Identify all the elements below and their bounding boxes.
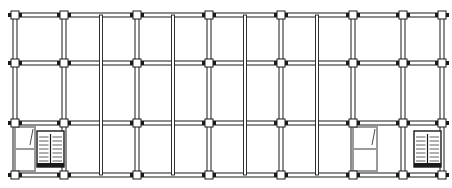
beam-stub — [285, 173, 288, 177]
secondary-line — [100, 15, 103, 175]
beam-stub — [57, 121, 60, 125]
beam-stub — [130, 121, 133, 125]
beam-stub — [435, 13, 438, 17]
beam-stub — [446, 13, 449, 17]
beam-stub — [407, 173, 410, 177]
beam-stub — [407, 121, 410, 125]
stair-right — [414, 131, 441, 167]
beam-stub — [8, 13, 11, 17]
service-rooms — [15, 127, 377, 171]
beam-stub — [8, 173, 11, 177]
beam-stub — [285, 13, 288, 17]
floor-plan — [0, 0, 452, 188]
beam-stub — [213, 121, 216, 125]
beam-stub — [346, 13, 349, 17]
beam-stub — [435, 61, 438, 65]
column-line — [279, 15, 283, 175]
beam — [15, 173, 442, 177]
beam-stub — [396, 121, 399, 125]
beam-stub — [435, 173, 438, 177]
beam-stub — [141, 173, 144, 177]
column-node — [399, 11, 407, 19]
column-node — [438, 119, 446, 127]
column-node — [133, 11, 141, 19]
column-line — [135, 15, 139, 175]
column-node — [60, 59, 68, 67]
beam-stub — [346, 61, 349, 65]
column-node — [438, 11, 446, 19]
beam-stub — [213, 173, 216, 177]
beam-stub — [357, 13, 360, 17]
column-node — [60, 11, 68, 19]
beam-stub — [68, 61, 71, 65]
beam-stub — [357, 61, 360, 65]
column-node — [60, 171, 68, 179]
beam-stub — [346, 173, 349, 177]
beam-stub — [130, 173, 133, 177]
column-node — [11, 171, 19, 179]
beam-stub — [202, 121, 205, 125]
beam-stub — [357, 173, 360, 177]
beam-stub — [141, 61, 144, 65]
beam-stub — [130, 61, 133, 65]
column-node — [60, 119, 68, 127]
column-node — [205, 59, 213, 67]
column-line — [207, 15, 211, 175]
beam-stub — [57, 13, 60, 17]
beam-stub — [130, 13, 133, 17]
beam-stub — [202, 13, 205, 17]
beam-stub — [396, 173, 399, 177]
column-node — [438, 59, 446, 67]
beam — [15, 61, 442, 65]
column-node — [205, 119, 213, 127]
beam-stub — [68, 121, 71, 125]
lift-left — [15, 127, 35, 171]
beam-stub — [446, 121, 449, 125]
column-node — [205, 11, 213, 19]
beam-stub — [57, 61, 60, 65]
beam-stub — [213, 61, 216, 65]
column-node — [399, 119, 407, 127]
beam — [15, 121, 442, 125]
column-node — [11, 59, 19, 67]
column-node — [277, 171, 285, 179]
beam-stub — [141, 121, 144, 125]
column-node — [277, 11, 285, 19]
secondary-line — [172, 15, 175, 175]
beam-stub — [446, 173, 449, 177]
column-node — [399, 171, 407, 179]
beam-stub — [357, 121, 360, 125]
column-node — [349, 119, 357, 127]
beam-stub — [274, 121, 277, 125]
column-node — [205, 171, 213, 179]
stair-landing — [37, 163, 64, 167]
beam-stub — [407, 61, 410, 65]
column-node — [11, 11, 19, 19]
beam-stub — [202, 61, 205, 65]
beam-stub — [285, 61, 288, 65]
beam-stub — [8, 121, 11, 125]
column-node — [438, 171, 446, 179]
beam-stub — [19, 13, 22, 17]
stair-landing — [414, 163, 441, 167]
beam-stub — [202, 173, 205, 177]
beam-stub — [19, 61, 22, 65]
column-node — [133, 119, 141, 127]
beam-stub — [19, 173, 22, 177]
beam-stub — [446, 61, 449, 65]
beam — [15, 13, 442, 17]
beam-stub — [396, 13, 399, 17]
column-lines — [13, 15, 444, 175]
beam-stub — [274, 13, 277, 17]
stair-left — [37, 131, 64, 167]
lift-right — [353, 127, 377, 171]
beam-stub — [274, 173, 277, 177]
column-node — [349, 11, 357, 19]
beam-stub — [141, 13, 144, 17]
column-node — [399, 59, 407, 67]
column-node — [349, 171, 357, 179]
beam-stub — [19, 121, 22, 125]
column-node — [133, 171, 141, 179]
beam-stub — [57, 173, 60, 177]
beam-stub — [435, 121, 438, 125]
